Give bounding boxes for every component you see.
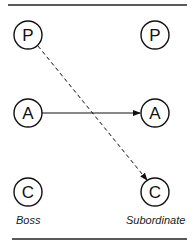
svg-text:P: P [22, 26, 33, 45]
boss-label: Boss [16, 214, 40, 226]
svg-text:A: A [22, 104, 34, 123]
subordinate-parent-node: P [141, 21, 169, 49]
svg-text:C: C [149, 183, 161, 202]
svg-text:P: P [149, 26, 160, 45]
subordinate-child-node: C [141, 178, 169, 206]
boss-child-node: C [14, 178, 42, 206]
ego-state-diagram: P A C P A C [0, 0, 196, 244]
boss-adult-node: A [14, 99, 42, 127]
svg-text:A: A [149, 104, 161, 123]
subordinate-adult-node: A [141, 99, 169, 127]
svg-text:C: C [22, 183, 34, 202]
subordinate-label: Subordinate [126, 214, 185, 226]
boss-parent-node: P [14, 21, 42, 49]
